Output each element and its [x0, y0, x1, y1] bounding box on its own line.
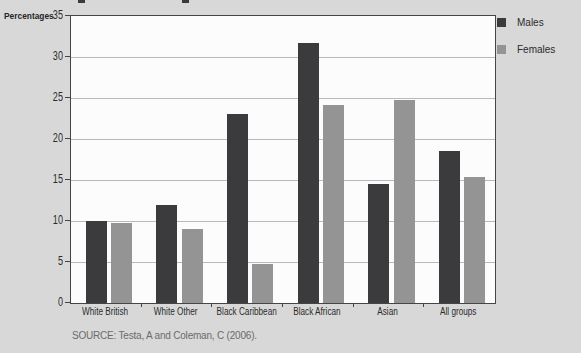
bar-males-white-british: [86, 221, 107, 303]
bar-females-all-groups: [464, 177, 485, 303]
x-category-label-text: Asian: [378, 306, 399, 317]
bar-males-asian: [368, 184, 389, 303]
legend-swatch-males: [497, 18, 506, 27]
plot-area: [70, 15, 496, 304]
bar-females-black-caribbean: [252, 264, 273, 303]
legend-label-females: Females: [517, 44, 555, 55]
gridline-5: [71, 262, 495, 263]
gridline-10: [71, 221, 495, 222]
x-category-label-text: White Other: [154, 306, 198, 317]
gridline-20: [71, 139, 495, 140]
bar-males-black-caribbean: [227, 114, 248, 303]
y-tick-mark-35: [65, 15, 70, 16]
bar-females-black-african: [323, 105, 344, 303]
x-category-label-all-groups: All groups: [414, 306, 504, 317]
y-tick-label-20: 20: [39, 132, 63, 144]
bar-females-white-british: [111, 223, 132, 303]
x-category-label-text: Black Caribbean: [217, 306, 277, 317]
y-tick-label-15: 15: [39, 173, 63, 185]
y-tick-label-25: 25: [39, 91, 63, 103]
source-note: SOURCE: Testa, A and Coleman, C (2006).: [72, 330, 257, 341]
bar-females-white-other: [182, 229, 203, 303]
cropped-title-fragment: [78, 0, 85, 3]
bar-males-black-african: [298, 43, 319, 303]
y-tick-label-10: 10: [39, 214, 63, 226]
y-tick-mark-20: [65, 138, 70, 139]
bar-males-white-other: [156, 205, 177, 303]
gridline-25: [71, 98, 495, 99]
y-tick-mark-25: [65, 97, 70, 98]
legend-swatch-females: [497, 45, 506, 54]
bar-males-all-groups: [439, 151, 460, 303]
x-category-label-text: All groups: [440, 306, 476, 317]
x-category-label-text: Black African: [294, 306, 341, 317]
y-tick-mark-30: [65, 56, 70, 57]
gridline-15: [71, 180, 495, 181]
y-tick-label-35: 35: [39, 9, 63, 21]
x-category-label-text: White British: [82, 306, 128, 317]
bar-females-asian: [394, 100, 415, 303]
y-tick-mark-10: [65, 220, 70, 221]
y-tick-label-5: 5: [39, 255, 63, 267]
y-tick-mark-0: [65, 302, 70, 303]
gridline-30: [71, 57, 495, 58]
y-tick-mark-15: [65, 179, 70, 180]
y-tick-label-30: 30: [39, 50, 63, 62]
y-tick-mark-5: [65, 261, 70, 262]
legend-label-males: Males: [517, 17, 544, 28]
chart-canvas: Percentages 05101520253035 White British…: [0, 0, 581, 353]
cropped-title-fragment: [182, 0, 189, 3]
